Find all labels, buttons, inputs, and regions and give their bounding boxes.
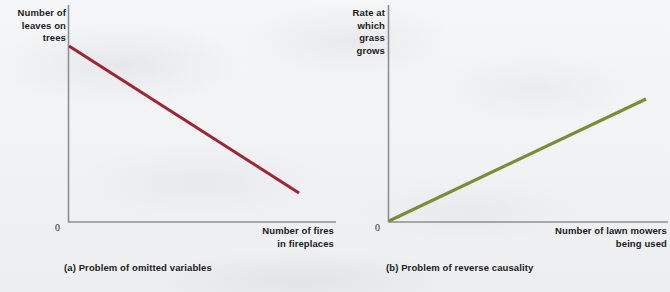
y-axis-label-b: Rate at which grass grows <box>245 7 385 57</box>
origin-label-a: 0 <box>55 222 60 233</box>
x-axis-label-b: Number of lawn mowers being used <box>480 225 667 250</box>
y-axis-label-a: Number of leaves on trees <box>0 7 66 45</box>
origin-label-b: 0 <box>375 222 380 233</box>
data-line-a <box>69 46 299 193</box>
data-line-b <box>389 99 646 221</box>
chart-panel-b: Rate at which grass grows Number of lawn… <box>330 0 670 292</box>
panel-caption-b: (b) Problem of reverse causality <box>386 262 533 273</box>
x-axis-label-a: Number of fires in fireplaces <box>186 225 334 250</box>
panel-caption-a: (a) Problem of omitted variables <box>64 262 212 273</box>
